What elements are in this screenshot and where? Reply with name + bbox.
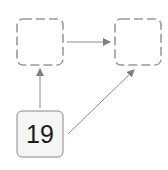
- arrow-bottom-to-top-right: [68, 70, 134, 134]
- number-node-label: 19: [17, 111, 63, 157]
- empty-node-top-left[interactable]: [17, 19, 63, 65]
- empty-node-top-right[interactable]: [115, 19, 161, 65]
